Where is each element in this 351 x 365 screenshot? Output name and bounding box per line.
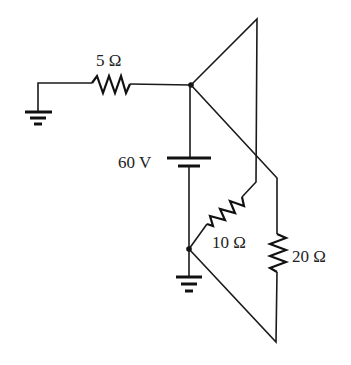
ground-icon-bottom <box>176 277 202 291</box>
wire-r2-to-bottom <box>189 224 207 249</box>
wire-r1-to-junction <box>130 84 191 85</box>
resistor-5-ohm-label: 5 Ω <box>96 51 121 70</box>
resistor-10-ohm-label: 10 Ω <box>212 233 246 252</box>
resistor-20-ohm <box>270 234 286 272</box>
resistor-20-ohm-label: 20 Ω <box>292 247 326 266</box>
wire-bottom-loop <box>189 249 277 342</box>
left-ground-wire <box>38 83 92 111</box>
resistor-5-ohm <box>92 76 130 93</box>
resistor-10-ohm <box>207 197 244 226</box>
battery-label: 60 V <box>118 153 152 172</box>
battery-60v <box>167 158 211 166</box>
wire-top-loop <box>191 19 257 197</box>
circuit-diagram: 5 Ω 10 Ω 20 Ω 60 V <box>0 0 351 365</box>
bottom-junction-node <box>186 246 192 252</box>
ground-icon-left <box>25 112 52 124</box>
